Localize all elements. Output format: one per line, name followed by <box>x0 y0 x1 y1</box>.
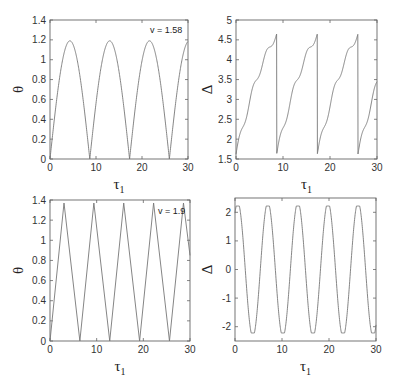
plot-frame <box>50 200 190 341</box>
x-axis-label: τ1 <box>300 358 311 377</box>
data-curve <box>235 206 376 333</box>
y-tick-label: 0.6 <box>32 275 46 286</box>
velocity-annotation: v = 1.58 <box>150 25 182 35</box>
x-tick-label: 0 <box>47 344 53 355</box>
y-tick-label: 0.2 <box>32 134 46 145</box>
data-curve <box>50 41 188 159</box>
x-tick-label: 20 <box>138 344 150 355</box>
y-tick-label: 4.5 <box>218 34 232 45</box>
y-tick-label: 4 <box>226 54 232 65</box>
x-axis-label: τ1 <box>114 358 125 377</box>
y-axis-label: Δ <box>199 264 215 274</box>
plot-delta-v158: 01020301.522.533.544.55τ1Δ <box>199 15 383 196</box>
y-tick-label: 1 <box>40 54 46 65</box>
x-tick-label: 10 <box>277 162 289 173</box>
x-tick-label: 0 <box>232 344 238 355</box>
y-tick-label: -1 <box>222 293 231 304</box>
x-tick-label: 10 <box>91 344 103 355</box>
x-tick-label: 20 <box>323 344 335 355</box>
y-tick-label: 5 <box>226 15 232 26</box>
y-tick-label: 0.4 <box>32 114 46 125</box>
y-tick-label: 0.8 <box>32 255 46 266</box>
velocity-annotation: v = 1.9 <box>158 206 185 216</box>
y-tick-label: 1 <box>225 235 231 246</box>
y-tick-label: 1.2 <box>32 215 46 226</box>
x-tick-label: 0 <box>47 162 53 173</box>
y-tick-label: 0.4 <box>32 295 46 306</box>
x-tick-label: 30 <box>370 344 382 355</box>
y-axis-label: Δ <box>199 84 215 94</box>
y-axis-label: θ <box>10 86 26 93</box>
y-tick-label: 0.2 <box>32 315 46 326</box>
data-curve <box>236 34 377 154</box>
y-tick-label: 1.2 <box>32 34 46 45</box>
x-tick-label: 10 <box>276 344 288 355</box>
data-curve <box>50 203 190 341</box>
y-tick-label: 2.5 <box>218 114 232 125</box>
figure: 010203000.20.40.60.811.21.4τ1θv = 1.58 0… <box>0 0 396 384</box>
y-tick-label: 3.5 <box>218 74 232 85</box>
x-tick-label: 30 <box>182 162 194 173</box>
y-tick-label: 1.5 <box>218 154 232 165</box>
y-axis-label: θ <box>10 267 26 274</box>
x-tick-label: 10 <box>90 162 102 173</box>
y-tick-label: 1.4 <box>32 195 46 206</box>
y-tick-label: 3 <box>226 94 232 105</box>
y-tick-label: 2 <box>226 134 232 145</box>
y-tick-label: 0 <box>40 154 46 165</box>
x-tick-label: 20 <box>324 162 336 173</box>
plot-theta-v19: 010203000.20.40.60.811.21.4τ1θv = 1.9 <box>10 195 196 378</box>
x-axis-label: τ1 <box>113 176 124 195</box>
y-tick-label: 0 <box>225 264 231 275</box>
plot-delta-v19: 0102030-2-1012τ1Δ <box>199 198 382 377</box>
x-tick-label: 30 <box>184 344 196 355</box>
y-tick-label: 1.4 <box>32 15 46 26</box>
y-tick-label: 0.8 <box>32 74 46 85</box>
y-tick-label: 2 <box>225 207 231 218</box>
plot-theta-v158: 010203000.20.40.60.811.21.4τ1θv = 1.58 <box>10 15 194 196</box>
y-tick-label: -2 <box>222 321 231 332</box>
x-tick-label: 0 <box>233 162 239 173</box>
x-axis-label: τ1 <box>301 176 312 195</box>
x-tick-label: 20 <box>136 162 148 173</box>
y-tick-label: 0.6 <box>32 94 46 105</box>
x-tick-label: 30 <box>371 162 383 173</box>
y-tick-label: 0 <box>40 336 46 347</box>
y-tick-label: 1 <box>40 235 46 246</box>
